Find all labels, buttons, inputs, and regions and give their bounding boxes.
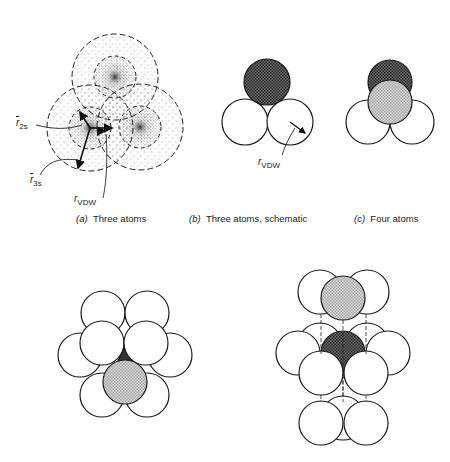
atom-front [124, 321, 168, 365]
figure-canvas [0, 0, 450, 462]
label-r2s: r2s [16, 117, 28, 131]
atom-dark-top [244, 59, 290, 105]
atom-front-right [344, 351, 388, 395]
panel-e-stacked-layers [276, 270, 410, 445]
atom-light-front [368, 80, 412, 124]
atom-bottom-right [344, 401, 388, 445]
atom-front-left [299, 351, 343, 395]
atom-right-cloud [97, 84, 183, 170]
caption-b: (b) Three atoms, schematic [189, 213, 307, 224]
atom-bottom-left [299, 401, 343, 445]
caption-c: (c) Four atoms [354, 213, 418, 224]
panel-a-three-atoms [36, 34, 183, 198]
atom-light [103, 360, 147, 404]
label-rvdw-b: rVDW [258, 156, 280, 170]
caption-a: (a) Three atoms [76, 213, 146, 224]
panel-d-close-packed-top [58, 291, 192, 417]
label-r3s: r3s [30, 174, 42, 188]
panel-c-four-atoms [346, 60, 434, 144]
atom-front [80, 321, 124, 365]
label-rvdw-a: rVDW [74, 193, 96, 207]
atom-top-gray [321, 276, 365, 320]
atom-white-left [222, 99, 268, 145]
panel-b-three-atoms-schematic [222, 59, 313, 155]
